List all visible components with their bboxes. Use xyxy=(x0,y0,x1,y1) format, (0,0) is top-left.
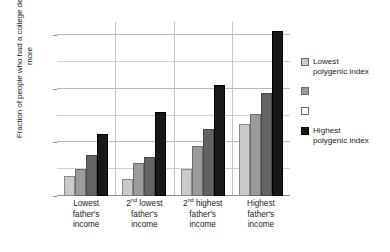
x-axis-group-label: 2nd highestfather'sincome xyxy=(174,199,232,231)
x-label-line: Lowest xyxy=(57,199,115,210)
y-tick-mark xyxy=(53,142,57,143)
x-axis-labels: Lowestfather'sincome2nd lowestfather'sin… xyxy=(57,199,290,231)
bar-group xyxy=(115,22,173,196)
bar-group xyxy=(174,22,232,196)
x-label-line: father's xyxy=(232,210,290,221)
bar[interactable] xyxy=(75,169,86,196)
chart-root: Fraction of people who had a college deg… xyxy=(0,0,390,252)
bar-groups xyxy=(57,22,290,196)
y-tick-mark xyxy=(53,196,57,197)
x-label-line: income xyxy=(57,220,115,231)
legend-label-line: polygenic index xyxy=(313,67,369,77)
x-label-line: 2nd highest xyxy=(174,199,232,210)
legend-label: Highestpolygenic index xyxy=(313,126,369,146)
x-label-line: father's xyxy=(57,210,115,221)
legend-label-line: Lowest xyxy=(313,57,369,67)
x-label-line: father's xyxy=(174,210,232,221)
legend-item[interactable]: Lowestpolygenic index xyxy=(301,57,390,77)
bar[interactable] xyxy=(122,179,133,196)
legend-item[interactable] xyxy=(301,86,390,97)
legend: Lowestpolygenic indexHighestpolygenic in… xyxy=(301,57,390,155)
plot-area xyxy=(57,22,290,196)
bar[interactable] xyxy=(203,129,214,196)
y-axis-title: Fraction of people who had a college deg… xyxy=(15,0,35,141)
legend-swatch xyxy=(301,127,309,135)
bar[interactable] xyxy=(250,114,261,196)
y-tick-mark xyxy=(53,35,57,36)
x-axis-group-label: Highestfather'sincome xyxy=(232,199,290,231)
x-label-line: 2nd lowest xyxy=(115,199,173,210)
legend-swatch xyxy=(301,107,309,115)
bar[interactable] xyxy=(64,176,75,196)
bar[interactable] xyxy=(272,31,283,196)
y-tick-mark xyxy=(53,89,57,90)
bar[interactable] xyxy=(192,146,203,196)
x-axis-group-label: 2nd lowestfather'sincome xyxy=(115,199,173,231)
bar-group xyxy=(232,22,290,196)
bar-group xyxy=(57,22,115,196)
x-axis-group-label: Lowestfather'sincome xyxy=(57,199,115,231)
bar[interactable] xyxy=(86,155,97,196)
bar[interactable] xyxy=(133,163,144,196)
bar[interactable] xyxy=(261,93,272,196)
legend-swatch xyxy=(301,87,309,95)
legend-item[interactable] xyxy=(301,106,390,117)
legend-label-line: Highest xyxy=(313,126,369,136)
bar[interactable] xyxy=(239,124,250,196)
bar[interactable] xyxy=(97,134,108,196)
bar[interactable] xyxy=(214,85,225,196)
legend-item[interactable]: Highestpolygenic index xyxy=(301,126,390,146)
bar[interactable] xyxy=(181,169,192,196)
legend-swatch xyxy=(301,58,309,66)
x-label-line: income xyxy=(174,220,232,231)
x-label-line: income xyxy=(115,220,173,231)
legend-label: Lowestpolygenic index xyxy=(313,57,369,77)
legend-label-line: polygenic index xyxy=(313,136,369,146)
x-label-line: Highest xyxy=(232,199,290,210)
bar[interactable] xyxy=(144,157,155,196)
x-label-line: father's xyxy=(115,210,173,221)
x-label-line: income xyxy=(232,220,290,231)
bar[interactable] xyxy=(155,112,166,196)
